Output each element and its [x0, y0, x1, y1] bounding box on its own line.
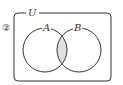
problem-number: ② [2, 23, 10, 33]
venn-diagram: ② U A B [0, 0, 123, 85]
set-a-label: A [42, 22, 50, 33]
set-b-label: B [73, 22, 81, 33]
universe-label: U [28, 7, 37, 18]
